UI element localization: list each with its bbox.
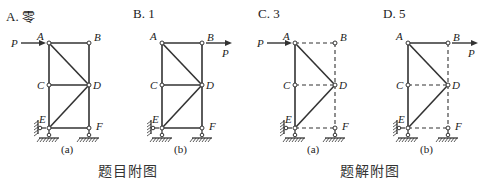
load-label: P <box>221 47 229 59</box>
solution-caption: 题解附图 <box>340 160 400 180</box>
member-AD <box>408 43 448 85</box>
node-E <box>47 126 51 130</box>
node-label-D: D <box>92 79 101 91</box>
member-AD <box>49 43 89 85</box>
figure-sublabel: (b) <box>174 143 187 156</box>
node-B <box>87 41 91 45</box>
node-label-B: B <box>207 31 214 43</box>
node-A <box>293 41 297 45</box>
node-D <box>333 83 337 87</box>
node-C <box>160 83 164 87</box>
figure-sublabel: (a) <box>307 143 320 156</box>
node-label-C: C <box>396 79 404 91</box>
node-E <box>406 126 410 130</box>
node-label-E: E <box>151 113 159 125</box>
member-AD <box>295 43 335 85</box>
load-label: P <box>256 37 264 49</box>
truss-figure-1: ABCDEFP(a) <box>10 30 103 156</box>
node-C <box>47 83 51 87</box>
node-B <box>200 41 204 45</box>
node-label-C: C <box>283 79 291 91</box>
node-F <box>200 126 204 130</box>
figure-sublabel: (a) <box>61 143 74 156</box>
node-label-F: F <box>454 120 462 132</box>
node-label-B: B <box>453 31 460 43</box>
node-label-B: B <box>340 31 347 43</box>
node-B <box>333 41 337 45</box>
node-B <box>446 41 450 45</box>
node-label-F: F <box>341 120 349 132</box>
member-DE <box>295 85 335 128</box>
node-A <box>406 41 410 45</box>
node-C <box>293 83 297 87</box>
node-A <box>47 41 51 45</box>
node-label-E: E <box>397 113 405 125</box>
node-label-A: A <box>282 30 290 42</box>
truss-figure-4: ABCDEFP(b) <box>393 30 478 156</box>
problem-caption: 题目附图 <box>98 160 158 180</box>
member-DE <box>162 85 202 128</box>
node-label-D: D <box>451 79 460 91</box>
node-D <box>446 83 450 87</box>
node-label-A: A <box>36 30 44 42</box>
node-E <box>160 126 164 130</box>
load-label: P <box>10 37 18 49</box>
member-DE <box>408 85 448 128</box>
node-E <box>293 126 297 130</box>
load-label: P <box>467 47 475 59</box>
node-F <box>446 126 450 130</box>
node-label-A: A <box>149 30 157 42</box>
node-label-F: F <box>95 120 103 132</box>
truss-figure-3: ABCDEFP(a) <box>256 30 349 156</box>
node-F <box>333 126 337 130</box>
node-label-F: F <box>208 120 216 132</box>
member-DE <box>49 85 89 128</box>
node-F <box>87 126 91 130</box>
node-label-C: C <box>150 79 158 91</box>
node-A <box>160 41 164 45</box>
truss-diagrams: ABCDEFP(a)ABCDEFP(b)ABCDEFP(a)ABCDEFP(b) <box>0 0 481 188</box>
figure-sublabel: (b) <box>420 143 433 156</box>
node-label-D: D <box>205 79 214 91</box>
truss-figure-2: ABCDEFP(b) <box>147 30 232 156</box>
node-label-B: B <box>94 31 101 43</box>
member-AD <box>162 43 202 85</box>
node-label-E: E <box>284 113 292 125</box>
node-label-D: D <box>338 79 347 91</box>
node-label-C: C <box>37 79 45 91</box>
node-D <box>87 83 91 87</box>
node-label-E: E <box>38 113 46 125</box>
node-label-A: A <box>395 30 403 42</box>
node-C <box>406 83 410 87</box>
node-D <box>200 83 204 87</box>
